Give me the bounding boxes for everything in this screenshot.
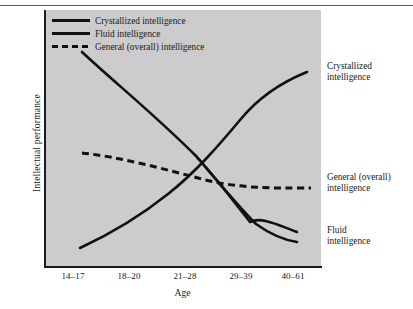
legend-label-crystallized-intelligence: Crystallized intelligence: [90, 16, 186, 26]
legend-label-general-overall-intelligence: General (overall) intelligence: [90, 42, 204, 52]
x-tick-label-3: 21–28: [157, 271, 213, 281]
legend-item-fluid-intelligence: Fluid intelligence: [52, 27, 242, 40]
series-callout-crystallized-line1: Crystallized: [327, 61, 411, 72]
x-tick-label-1: 14–17: [45, 271, 101, 281]
x-tick-label-5: 40–61: [265, 271, 321, 281]
x-axis-title: Age: [44, 288, 321, 298]
legend-item-general-overall-intelligence: General (overall) intelligence: [52, 40, 242, 53]
legend: Crystallized intelligence Fluid intellig…: [52, 14, 242, 53]
x-tick-label-2: 18–20: [101, 271, 157, 281]
y-axis-title: Intellectual performance: [32, 43, 42, 243]
series-callout-general-overall-intelligence: General (overall) intelligence: [327, 172, 411, 194]
series-callout-general-line2: intelligence: [327, 183, 411, 194]
series-callout-crystallized-intelligence: Crystallized intelligence: [327, 61, 411, 83]
series-path-fluid-intelligence-tail: [196, 156, 297, 242]
y-axis-line: [44, 10, 46, 268]
series-callout-fluid-line2: intelligence: [327, 236, 411, 247]
series-callout-fluid-line1: Fluid: [327, 225, 411, 236]
series-callout-general-line1: General (overall): [327, 172, 411, 183]
legend-line-solid-icon: [52, 14, 90, 27]
legend-item-crystallized-intelligence: Crystallized intelligence: [52, 14, 242, 27]
series-callout-crystallized-line2: intelligence: [327, 72, 411, 83]
series-path-crystallized-intelligence: [80, 72, 307, 248]
top-divider-rule: [0, 5, 413, 6]
figure-intellectual-performance-by-age: Intellectual performance Age 14–17 18–20…: [0, 0, 413, 309]
legend-label-fluid-intelligence: Fluid intelligence: [90, 29, 160, 39]
series-path-fluid-intelligence: [82, 52, 297, 232]
x-axis-line: [44, 266, 322, 268]
x-tick-label-4: 29–39: [213, 271, 269, 281]
legend-line-dashed-icon: [52, 40, 90, 53]
series-callout-fluid-intelligence: Fluid intelligence: [327, 225, 411, 247]
legend-line-solid-icon: [52, 27, 90, 40]
